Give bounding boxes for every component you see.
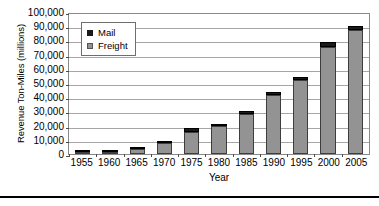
chart-legend: Mail Freight (81, 22, 136, 56)
bar-stack (348, 26, 363, 155)
x-axis-tick-labels: 1955196019651970197519801985199019952000… (68, 157, 370, 168)
footer-rule (0, 196, 379, 198)
x-tick-label: 2005 (343, 157, 370, 168)
bar-group (342, 14, 369, 154)
y-tick-label: 50,000 (33, 79, 64, 89)
y-tick-label: 80,000 (33, 36, 64, 46)
bar-stack (184, 128, 199, 154)
x-tick-label: 1960 (95, 157, 122, 168)
x-tick-label: 2000 (315, 157, 342, 168)
bar-segment-freight (184, 132, 199, 154)
x-tick-label: 1985 (233, 157, 260, 168)
x-tick-label: 1975 (178, 157, 205, 168)
plot-area: Mail Freight (68, 13, 370, 155)
x-tick-label: 1970 (150, 157, 177, 168)
bar-stack (211, 124, 226, 154)
bar-stack (75, 150, 90, 154)
bar-stack (266, 92, 281, 154)
bar-group (205, 14, 232, 154)
y-tick-label: 100,000 (28, 8, 64, 18)
bar-segment-freight (320, 47, 335, 154)
y-tick-label: 70,000 (33, 51, 64, 61)
bar-group (151, 14, 178, 154)
bar-segment-freight (239, 114, 254, 154)
x-axis-title: Year (68, 172, 370, 183)
bar-group (314, 14, 341, 154)
x-tick-label: 1995 (288, 157, 315, 168)
bar-group (287, 14, 314, 154)
chart-figure: Revenue Ton-Miles (millions) 010,00020,0… (0, 0, 379, 206)
bar-stack (157, 141, 172, 154)
legend-item-freight: Freight (87, 39, 128, 52)
bar-segment-freight (157, 143, 172, 154)
legend-label-freight: Freight (98, 40, 128, 51)
y-axis-tick-labels: 010,00020,00030,00040,00050,00060,00070,… (8, 13, 64, 155)
bar-stack (293, 77, 308, 154)
y-tick-label: 30,000 (33, 107, 64, 117)
bar-segment-freight (102, 152, 117, 154)
bar-stack (102, 150, 117, 154)
legend-label-mail: Mail (98, 27, 115, 38)
y-tick-label: 90,000 (33, 22, 64, 32)
y-tick-label: 60,000 (33, 65, 64, 75)
bar-stack (130, 147, 145, 154)
bar-segment-freight (130, 149, 145, 154)
bar-group (233, 14, 260, 154)
legend-item-mail: Mail (87, 26, 128, 39)
bar-group (178, 14, 205, 154)
x-tick-label: 1990 (260, 157, 287, 168)
legend-swatch-mail-icon (87, 30, 93, 36)
bar-segment-freight (293, 80, 308, 154)
x-tick-label: 1965 (123, 157, 150, 168)
y-tick-label: 20,000 (33, 122, 64, 132)
y-tick-label: 10,000 (33, 136, 64, 146)
y-tick-label: 40,000 (33, 93, 64, 103)
bar-stack (320, 42, 335, 154)
bar-group (260, 14, 287, 154)
x-tick-label: 1955 (68, 157, 95, 168)
bar-segment-freight (211, 126, 226, 154)
bar-segment-freight (266, 95, 281, 154)
y-tick-label: 0 (58, 150, 64, 160)
bar-segment-freight (75, 152, 90, 154)
bar-segment-freight (348, 30, 363, 154)
x-tick-label: 1980 (205, 157, 232, 168)
legend-swatch-freight-icon (87, 43, 93, 49)
bar-stack (239, 111, 254, 154)
